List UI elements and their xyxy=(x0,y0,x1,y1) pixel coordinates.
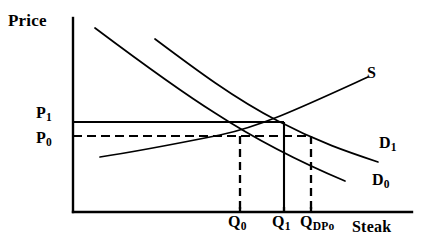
quantity-tick-q1-sub: 1 xyxy=(285,220,291,232)
price-tick-p1-sub: 1 xyxy=(46,111,52,123)
price-tick-p0-main: P xyxy=(36,129,46,146)
price-tick-label-p1: P1 xyxy=(36,105,52,121)
price-tick-p1-main: P xyxy=(36,104,46,121)
supply-demand-figure: Price Steak P1 P0 Q0 Q1 QDPo S D1 D0 xyxy=(0,0,423,244)
curve-label-d0-sub: 0 xyxy=(384,178,390,190)
quantity-tick-qdp0-main: Q xyxy=(300,213,313,230)
supply-curve-s xyxy=(100,77,368,157)
x-axis-label: Steak xyxy=(352,219,391,235)
curve-label-s: S xyxy=(367,65,376,81)
quantity-tick-label-qdp0: QDPo xyxy=(300,214,334,230)
curve-label-d0: D0 xyxy=(372,172,390,188)
y-axis-label: Price xyxy=(8,12,47,29)
quantity-tick-q0-main: Q xyxy=(228,213,241,230)
quantity-tick-q1-main: Q xyxy=(272,213,285,230)
quantity-tick-q0-sub: 0 xyxy=(241,220,247,232)
quantity-tick-label-q0: Q0 xyxy=(228,214,247,230)
price-tick-label-p0: P0 xyxy=(36,130,52,146)
quantity-tick-label-q1: Q1 xyxy=(272,214,291,230)
price-tick-p0-sub: 0 xyxy=(46,136,52,148)
curve-label-d1: D1 xyxy=(379,135,397,151)
curve-label-s-main: S xyxy=(367,64,376,81)
quantity-tick-qdp0-sub: DPo xyxy=(313,220,335,232)
curve-label-d1-sub: 1 xyxy=(391,141,397,153)
curve-label-d0-main: D xyxy=(372,171,384,188)
curve-label-d1-main: D xyxy=(379,134,391,151)
chart-canvas xyxy=(0,0,423,244)
